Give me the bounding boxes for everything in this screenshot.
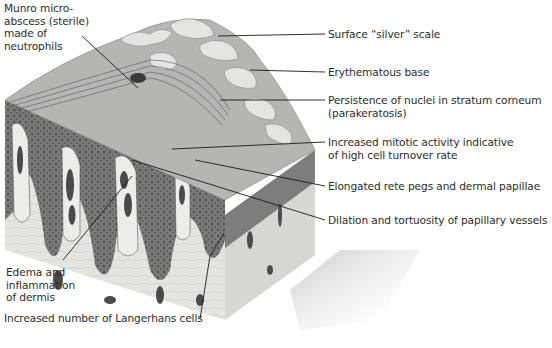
label-parakeratosis: Persistence of nuclei in stratum corneum… [328,94,541,119]
label-edema: Edema and inflammation of dermis [6,266,75,304]
label-erythematous-base: Erythematous base [328,66,429,79]
label-line: abscess (sterile) [4,15,89,28]
label-line: Persistence of nuclei in stratum corneum [328,94,541,107]
label-rete-pegs: Elongated rete pegs and dermal papillae [328,180,540,193]
label-line: Edema and [6,266,75,279]
label-line: of dermis [6,291,75,304]
label-line: inflammation [6,279,75,292]
munro-abscess [130,73,146,83]
label-line: (parakeratosis) [328,107,541,120]
label-line: of high cell turnover rate [328,149,513,162]
label-mitotic-activity: Increased mitotic activity indicative of… [328,136,513,161]
label-line: made of [4,27,89,40]
label-line: neutrophils [4,40,89,53]
label-papillary-vessels: Dilation and tortuosity of papillary ves… [328,214,547,227]
label-langerhans: Increased number of Langerhans cells [4,312,203,325]
block-shadow [290,250,420,330]
label-line: Increased mitotic activity indicative [328,136,513,149]
label-munro-abscess: Munro micro- abscess (sterile) made of n… [4,2,89,52]
label-line: Munro micro- [4,2,89,15]
label-surface-scale: Surface “silver” scale [328,28,440,41]
